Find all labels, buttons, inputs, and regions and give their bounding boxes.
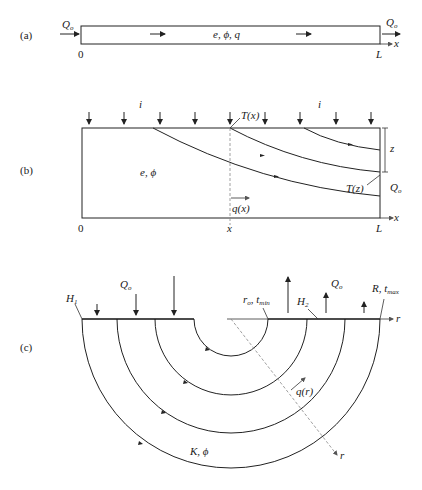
recharge-label-left: i <box>139 98 142 110</box>
panel-c: (c) r H1 Qo Qo ro, tmin H2 R <box>20 276 401 468</box>
x-mid-label: x <box>226 222 232 234</box>
tx-leader <box>230 118 240 128</box>
x-end-label: L <box>375 222 382 234</box>
panel-b: (b) i i T(x) q(x) e, ϕ <box>20 98 402 234</box>
x-end-label: L <box>375 48 382 60</box>
recharge-label-right: i <box>318 98 321 110</box>
panel-a: (a) Qo e, ϕ, q Qo x 0 L <box>20 16 400 60</box>
x-axis-label: x <box>393 211 399 223</box>
h1-label: H1 <box>65 292 77 306</box>
inner-leader <box>263 308 268 319</box>
tz-leader <box>367 175 380 185</box>
r-axis-label: r <box>396 312 401 324</box>
radial-axis-label: r <box>340 449 345 461</box>
outflow-label: Qo <box>390 181 402 195</box>
x-start-label: 0 <box>78 222 84 234</box>
equipotential-2 <box>155 319 307 395</box>
x-start-label: 0 <box>78 48 84 60</box>
h2-label: H2 <box>296 295 309 309</box>
flow-path-2 <box>230 128 380 172</box>
radial-line <box>231 319 337 455</box>
outer-leader <box>380 299 384 319</box>
panel-a-label: (a) <box>20 29 33 42</box>
inner-boundary <box>194 319 268 356</box>
medium-label: e, ϕ <box>140 166 156 178</box>
aquifer-properties: e, ϕ, q <box>213 28 241 40</box>
outer-radius-label: R, tmax <box>371 282 400 296</box>
outer-boundary <box>82 319 380 468</box>
panel-b-label: (b) <box>20 164 33 177</box>
tz-label: T(z) <box>346 182 364 195</box>
equipotential-3 <box>117 319 345 433</box>
inner-radius-label: ro, tmin <box>243 293 270 307</box>
figure: (a) Qo e, ϕ, q Qo x 0 L (b) i i <box>0 0 422 490</box>
flux-label: q(r) <box>296 385 313 398</box>
recharge-arrows <box>89 112 371 124</box>
flux-label: q(x) <box>232 202 250 215</box>
medium-label: K, ϕ <box>189 445 209 457</box>
h1-leader <box>75 304 82 319</box>
inflow-label: Qo <box>62 18 74 32</box>
q-left-label: Qo <box>120 278 132 292</box>
panel-c-label: (c) <box>20 341 33 354</box>
path-arrow-icon <box>260 154 265 157</box>
tx-label: T(x) <box>241 109 260 122</box>
path-arrow-icon <box>183 380 188 384</box>
outflow-label: Qo <box>386 16 398 30</box>
q-right-label: Qo <box>331 277 343 291</box>
depth-label: z <box>389 142 395 154</box>
flow-path-3 <box>304 128 380 150</box>
x-axis-label: x <box>393 37 399 49</box>
h2-leader <box>308 309 318 319</box>
path-arrow-icon <box>138 441 143 445</box>
